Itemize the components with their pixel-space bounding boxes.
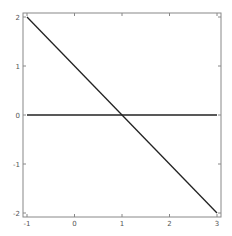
x-tick-label: -1 — [24, 220, 31, 228]
y-tick-label: -2 — [13, 210, 20, 218]
y-tick-label: 2 — [16, 14, 20, 22]
x-tick-label: 1 — [120, 220, 124, 228]
plot-canvas: 2 1 0 -1 -2 -1 0 1 2 3 — [0, 0, 232, 236]
y-tick-label: -1 — [13, 161, 20, 169]
x-tick-label: 3 — [215, 220, 219, 228]
x-tick-label: 0 — [72, 220, 76, 228]
x-tick-label: 2 — [167, 220, 171, 228]
y-tick-label: 1 — [16, 63, 20, 71]
series-layer — [27, 17, 217, 213]
y-tick-label: 0 — [16, 112, 20, 120]
